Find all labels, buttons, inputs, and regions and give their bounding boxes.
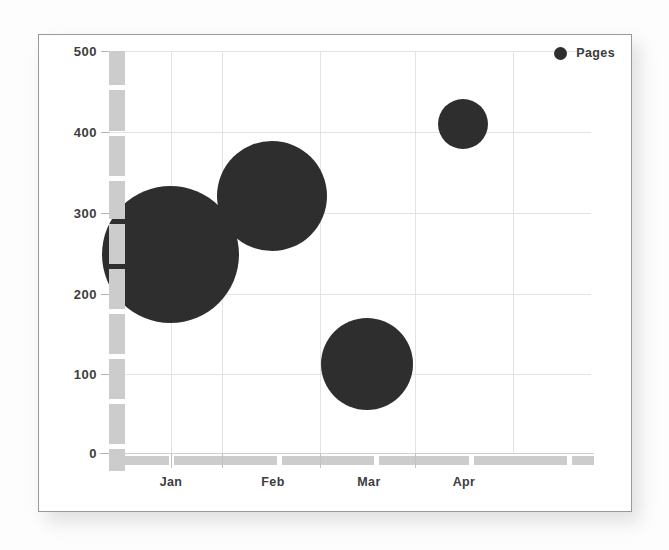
scrollbar-segment (109, 224, 125, 264)
y-tick-label: 0 (53, 446, 97, 461)
legend-label-pages: Pages (576, 46, 615, 60)
chart-card: 500 400 300 200 100 0 (38, 34, 632, 512)
x-tick-mark-mar (320, 454, 321, 468)
scrollbar-segment (474, 456, 567, 465)
gridline-horizontal-500 (111, 51, 591, 52)
bubble-point-apr[interactable] (438, 99, 488, 149)
vertical-scrollbar[interactable] (109, 51, 125, 471)
y-tick-label: 300 (53, 206, 97, 221)
chart-legend[interactable]: Pages (554, 46, 615, 60)
horizontal-scrollbar[interactable] (95, 456, 595, 465)
scrollbar-segment (109, 90, 125, 131)
x-tick-mark-jan (171, 454, 172, 468)
y-tick-label: 400 (53, 125, 97, 140)
x-tick-mark-feb (222, 454, 223, 468)
gridline-horizontal-400 (111, 132, 591, 133)
scrollbar-segment (109, 404, 125, 444)
scrollbar-segment (109, 136, 125, 176)
scrollbar-segment (572, 456, 594, 465)
x-tick-label-mar: Mar (339, 475, 399, 489)
bubble-point-mar[interactable] (321, 318, 413, 410)
scrollbar-segment (109, 359, 125, 399)
x-tick-label-apr: Apr (434, 475, 494, 489)
circle-marker-icon (554, 47, 567, 60)
gridline-vertical-apr (415, 51, 416, 453)
x-tick-mark-apr (415, 454, 416, 468)
scrollbar-segment (109, 269, 125, 309)
bubble-point-feb[interactable] (217, 141, 327, 251)
scrollbar-segment (109, 456, 169, 465)
gridline-vertical-mar (320, 51, 321, 453)
scrollbar-segment (109, 181, 125, 219)
axis-baseline (99, 453, 594, 454)
scrollbar-segment (109, 314, 125, 354)
y-tick-label: 200 (53, 287, 97, 302)
gridline-vertical-edge (513, 51, 514, 453)
scrollbar-segment (109, 51, 125, 85)
y-tick-label: 500 (53, 44, 97, 59)
x-tick-label-feb: Feb (243, 475, 303, 489)
y-tick-label: 100 (53, 367, 97, 382)
scrollbar-segment (379, 456, 469, 465)
x-tick-label-jan: Jan (141, 475, 201, 489)
plot-area: 500 400 300 200 100 0 (39, 35, 633, 513)
scrollbar-segment (174, 456, 277, 465)
scrollbar-segment (282, 456, 374, 465)
